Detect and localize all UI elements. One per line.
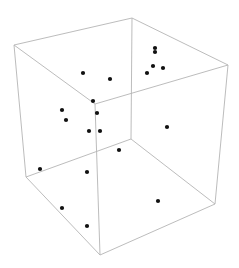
data-point bbox=[85, 170, 89, 174]
data-point bbox=[64, 118, 68, 122]
data-point bbox=[108, 77, 112, 81]
box-edge bbox=[215, 65, 228, 204]
data-point bbox=[165, 125, 169, 129]
data-point bbox=[153, 46, 157, 50]
box-edge bbox=[14, 45, 26, 177]
data-point bbox=[151, 64, 155, 68]
box-edge bbox=[26, 177, 100, 255]
data-point bbox=[87, 129, 91, 133]
scatter-3d-plot bbox=[0, 0, 239, 268]
box-edge bbox=[14, 18, 132, 45]
box-edge bbox=[131, 18, 132, 139]
data-point bbox=[81, 71, 85, 75]
box-edge bbox=[95, 65, 228, 104]
box-edge bbox=[26, 139, 131, 177]
data-point bbox=[117, 148, 121, 152]
box-edge bbox=[95, 104, 100, 255]
data-point bbox=[91, 99, 95, 103]
data-points bbox=[38, 46, 169, 228]
data-point bbox=[60, 108, 64, 112]
data-point bbox=[161, 66, 165, 70]
data-point bbox=[98, 129, 102, 133]
box-edge bbox=[132, 18, 228, 65]
box-edge bbox=[100, 204, 215, 255]
data-point bbox=[145, 71, 149, 75]
bounding-box bbox=[14, 18, 228, 255]
data-point bbox=[85, 224, 89, 228]
data-point bbox=[156, 199, 160, 203]
box-edge bbox=[131, 139, 215, 204]
data-point bbox=[95, 111, 99, 115]
data-point bbox=[60, 206, 64, 210]
data-point bbox=[153, 50, 157, 54]
data-point bbox=[38, 167, 42, 171]
